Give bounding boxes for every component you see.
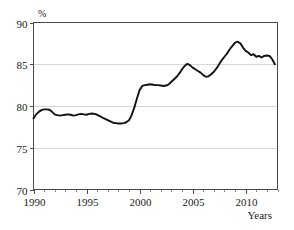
x-tick-label-2010: 2010 [236, 196, 259, 208]
x-axis-title: Years [247, 209, 272, 221]
y-tick-label-80: 80 [17, 101, 29, 113]
y-tick-label-90: 90 [17, 18, 29, 30]
line-chart: 7075808590 19901995200020052010 % Years [0, 0, 294, 230]
y-axis-unit-label: % [38, 8, 46, 19]
x-tick-label-2000: 2000 [130, 196, 153, 208]
chart-figure: 7075808590 19901995200020052010 % Years [0, 0, 294, 230]
y-tick-label-85: 85 [17, 59, 29, 71]
x-tick-label-1995: 1995 [77, 196, 100, 208]
x-tick-label-1990: 1990 [24, 196, 47, 208]
x-tick-label-2005: 2005 [183, 196, 206, 208]
y-tick-label-75: 75 [17, 143, 29, 155]
